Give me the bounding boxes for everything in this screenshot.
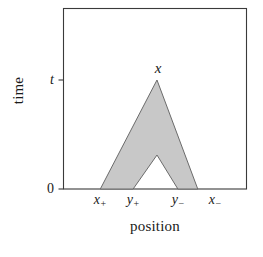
subscript-minus: −	[178, 198, 184, 209]
ytick-label-t: t	[36, 72, 54, 88]
xtick-label-y-minus: y−	[160, 192, 196, 209]
subscript-plus: +	[100, 198, 106, 209]
y-axis-title: time	[0, 0, 38, 181]
ytick-label-0: 0	[36, 181, 54, 197]
spacetime-diagram-figure: 0 t x+ y+ y− x− x time position	[0, 0, 263, 257]
x-axis-title: position	[63, 218, 247, 235]
xtick-label-x-minus: x−	[197, 192, 233, 209]
light-cone-region	[100, 80, 197, 189]
subscript-minus: −	[215, 198, 221, 209]
xtick-label-x-plus: x+	[82, 192, 118, 209]
apex-label-x: x	[143, 60, 173, 77]
y-axis-title-text: time	[11, 77, 28, 104]
subscript-plus: +	[133, 198, 139, 209]
xtick-label-y-plus: y+	[115, 192, 151, 209]
